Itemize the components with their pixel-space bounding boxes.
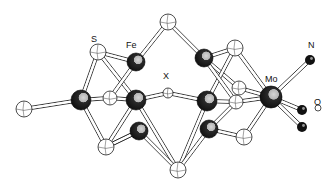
atom-fe bbox=[71, 90, 91, 110]
atom-s bbox=[103, 91, 117, 105]
atom-o bbox=[297, 105, 307, 115]
atom-s bbox=[236, 129, 252, 145]
atom-s bbox=[227, 40, 243, 56]
atom-fe bbox=[200, 120, 218, 138]
molecule-diagram bbox=[0, 0, 331, 188]
atom-fe bbox=[127, 53, 145, 71]
label-s: S bbox=[91, 35, 97, 44]
atom-fe bbox=[197, 91, 217, 111]
atom-s bbox=[16, 101, 32, 117]
atom-fe bbox=[195, 49, 213, 67]
atom-fe bbox=[130, 122, 148, 140]
atom-fe bbox=[126, 90, 146, 110]
label-mo: Mo bbox=[265, 75, 278, 84]
atom-s bbox=[170, 162, 186, 178]
label-n: N bbox=[308, 41, 315, 50]
atom-s bbox=[160, 14, 176, 30]
atom-s bbox=[98, 139, 114, 155]
atom-x bbox=[163, 88, 173, 98]
atom-n bbox=[305, 55, 315, 65]
label-x: X bbox=[163, 72, 169, 81]
atom-o bbox=[297, 122, 307, 132]
label-fe: Fe bbox=[126, 41, 137, 50]
atom-s bbox=[229, 95, 243, 109]
atom-s bbox=[90, 44, 106, 60]
label-o: O bbox=[314, 98, 321, 107]
atom-mo bbox=[260, 86, 282, 108]
atom-s bbox=[232, 81, 246, 95]
